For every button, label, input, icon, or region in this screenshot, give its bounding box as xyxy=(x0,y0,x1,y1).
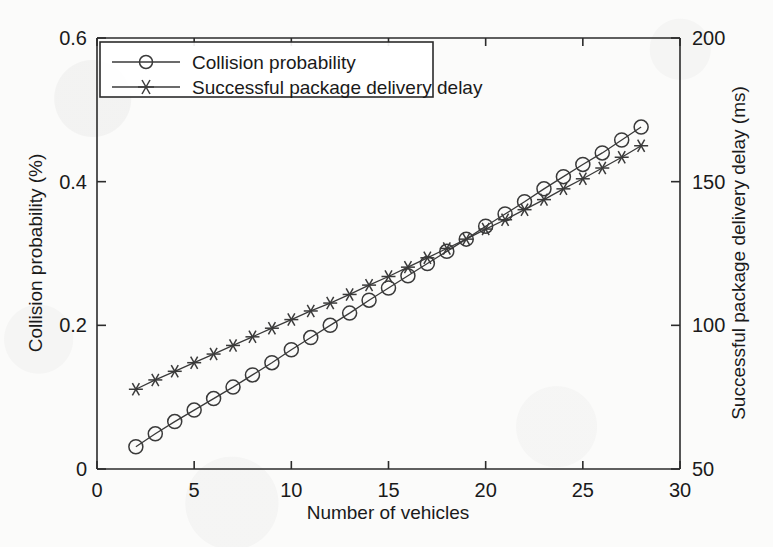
y-left-tick-label: 0.2 xyxy=(59,314,87,336)
x-tick-label: 20 xyxy=(475,479,497,501)
chart-plot: 051015202530 00.20.40.6 50100150200 Numb… xyxy=(0,0,773,547)
x-tick-label: 0 xyxy=(91,479,102,501)
y-left-tick-label: 0 xyxy=(76,458,87,480)
star-marker xyxy=(284,313,298,325)
y-right-tick-label: 200 xyxy=(692,27,725,49)
x-axis-tick-labels: 051015202530 xyxy=(91,479,691,501)
star-marker xyxy=(498,214,512,226)
x-tick-label: 10 xyxy=(280,479,302,501)
y-right-tick-label: 100 xyxy=(692,314,725,336)
x-tick-label: 30 xyxy=(669,479,691,501)
star-marker xyxy=(187,357,201,369)
y-right-tick-label: 50 xyxy=(692,458,714,480)
star-marker xyxy=(615,151,629,163)
axes-frame xyxy=(97,38,680,469)
legend[interactable]: Collision probability Successful package… xyxy=(100,42,483,98)
y-axis-left-ticks xyxy=(97,38,106,469)
star-marker xyxy=(207,348,221,360)
figure-canvas: 051015202530 00.20.40.6 50100150200 Numb… xyxy=(0,0,773,547)
star-marker xyxy=(129,383,143,395)
star-marker xyxy=(420,252,434,264)
y-axis-left-title: Collision probability (%) xyxy=(25,154,46,353)
x-axis-ticks xyxy=(97,38,680,469)
y-right-tick-label: 150 xyxy=(692,171,725,193)
star-marker xyxy=(304,305,318,317)
circle-marker xyxy=(634,120,648,134)
legend-label-2: Successful package delivery delay xyxy=(192,77,483,98)
y-axis-right-title: Successful package delivery delay (ms) xyxy=(728,86,749,420)
x-tick-label: 25 xyxy=(572,479,594,501)
star-marker xyxy=(362,279,376,291)
series-collision-probability xyxy=(129,120,648,454)
star-marker xyxy=(148,374,162,386)
star-marker xyxy=(343,288,357,300)
y-axis-right-tick-labels: 50100150200 xyxy=(692,27,725,480)
star-marker xyxy=(576,173,590,185)
x-axis-title: Number of vehicles xyxy=(307,502,470,523)
x-tick-label: 5 xyxy=(189,479,200,501)
star-marker xyxy=(323,297,337,309)
series-polyline xyxy=(136,127,641,447)
y-axis-left-tick-labels: 00.20.40.6 xyxy=(59,27,87,480)
star-marker xyxy=(595,162,609,174)
y-axis-right-ticks xyxy=(671,38,680,469)
y-left-tick-label: 0.4 xyxy=(59,171,87,193)
star-marker xyxy=(265,322,279,334)
star-marker xyxy=(245,331,259,343)
x-tick-label: 15 xyxy=(377,479,399,501)
y-left-tick-label: 0.6 xyxy=(59,27,87,49)
star-marker xyxy=(556,183,570,195)
star-marker xyxy=(168,365,182,377)
series-polyline xyxy=(136,146,641,390)
circle-marker xyxy=(129,440,143,454)
star-marker xyxy=(634,140,648,152)
legend-label-1: Collision probability xyxy=(192,52,356,73)
star-marker xyxy=(226,339,240,351)
